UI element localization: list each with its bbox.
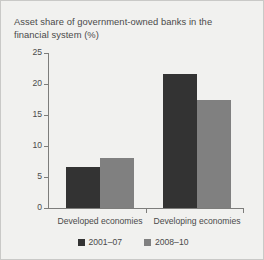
chart-figure: Asset share of government-owned banks in… bbox=[0, 0, 264, 260]
legend-item-2008-10: 2008–10 bbox=[144, 237, 188, 247]
y-tick-mark bbox=[44, 84, 48, 85]
x-category-label-developing: Developing economies bbox=[133, 216, 261, 226]
legend-swatch-icon bbox=[144, 239, 151, 246]
legend-item-2001-07: 2001–07 bbox=[78, 237, 122, 247]
bar-developed-2008-10 bbox=[100, 158, 134, 208]
plot-area: 25 20 15 10 5 0 Develo bbox=[48, 53, 244, 208]
y-tick-label: 20 bbox=[32, 78, 42, 88]
legend-swatch-icon bbox=[78, 239, 85, 246]
x-axis-end-tick bbox=[243, 208, 244, 213]
x-axis-group-separator bbox=[146, 208, 147, 213]
y-tick-label: 5 bbox=[37, 171, 42, 181]
bar-developing-2008-10 bbox=[197, 100, 231, 208]
chart-legend: 2001–07 2008–10 bbox=[1, 237, 264, 247]
y-tick-label: 15 bbox=[32, 109, 42, 119]
y-tick-label: 0 bbox=[37, 202, 42, 212]
chart-title: Asset share of government-owned banks in… bbox=[14, 15, 229, 41]
y-tick-mark bbox=[44, 146, 48, 147]
y-tick-mark bbox=[44, 53, 48, 54]
y-axis-line bbox=[48, 53, 49, 208]
y-tick-label: 25 bbox=[32, 47, 42, 57]
legend-label-2008-10: 2008–10 bbox=[155, 237, 188, 247]
bar-developed-2001-07 bbox=[66, 167, 100, 208]
y-tick-mark bbox=[44, 177, 48, 178]
bar-developing-2001-07 bbox=[163, 74, 197, 208]
y-tick-mark bbox=[44, 115, 48, 116]
y-tick-mark bbox=[44, 208, 48, 209]
legend-label-2001-07: 2001–07 bbox=[89, 237, 122, 247]
y-tick-label: 10 bbox=[32, 140, 42, 150]
